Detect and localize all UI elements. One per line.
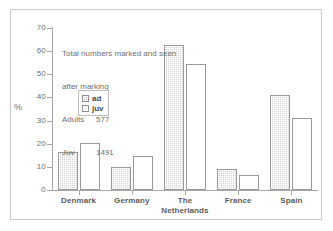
y-tick-label-text: 20 bbox=[20, 139, 46, 148]
y-tick-label-40: 40 bbox=[16, 92, 46, 102]
bar-juv-france bbox=[239, 175, 259, 190]
chart-legend: ad juv bbox=[78, 90, 109, 116]
bar-ad-spain bbox=[270, 95, 290, 190]
bar-ad-france bbox=[217, 169, 237, 190]
y-tick-label-20: 20 bbox=[16, 139, 46, 149]
legend-swatch-juv-icon bbox=[82, 105, 89, 112]
y-tick-label-text: 50 bbox=[20, 69, 46, 78]
bar-juv-spain bbox=[292, 118, 312, 190]
y-tick-label-60: 60 bbox=[16, 46, 46, 56]
x-tick-4 bbox=[291, 190, 292, 195]
x-axis-label-line-1: Germany bbox=[105, 196, 158, 206]
x-tick-1 bbox=[132, 190, 133, 195]
x-axis-label-line-1: Spain bbox=[265, 196, 318, 206]
annotation-juv: Juv1491 bbox=[62, 147, 176, 158]
y-tick-label-30: 30 bbox=[16, 116, 46, 126]
x-axis-label-line-1: France bbox=[212, 196, 265, 206]
x-axis-label-the-netherlands: TheNetherlands bbox=[158, 196, 211, 216]
x-tick-3 bbox=[238, 190, 239, 195]
legend-swatch-ad-icon bbox=[82, 95, 89, 102]
y-axis-title: % bbox=[14, 102, 22, 112]
x-axis-label-france: France bbox=[212, 196, 265, 206]
x-axis-label-germany: Germany bbox=[105, 196, 158, 206]
y-tick-label-50: 50 bbox=[16, 69, 46, 79]
y-tick-label-10: 10 bbox=[16, 162, 46, 172]
x-tick-0 bbox=[79, 190, 80, 195]
y-tick-label-text: 40 bbox=[20, 92, 46, 101]
annotation-line-1: Total numbers marked and seen bbox=[62, 48, 176, 59]
y-tick-label-70: 70 bbox=[16, 23, 46, 33]
x-axis-label-line-1: The bbox=[158, 196, 211, 206]
bar-juv-the-netherlands bbox=[186, 64, 206, 190]
y-tick-label-text: 10 bbox=[20, 162, 46, 171]
x-axis-label-line-1: Denmark bbox=[52, 196, 105, 206]
annotation-adults-value: 577 bbox=[96, 115, 109, 124]
x-tick-2 bbox=[185, 190, 186, 195]
legend-item-ad: ad bbox=[82, 93, 104, 103]
legend-label-ad: ad bbox=[92, 94, 101, 103]
y-tick-label-text: 30 bbox=[20, 116, 46, 125]
chart-figure: % 706050403020100 DenmarkGermanyTheNethe… bbox=[0, 0, 333, 231]
y-tick-label-0: 0 bbox=[16, 185, 46, 195]
y-tick-label-text: 70 bbox=[20, 23, 46, 32]
y-tick-0 bbox=[47, 190, 53, 191]
x-axis-label-line-2: Netherlands bbox=[158, 206, 211, 216]
y-tick-label-text: 0 bbox=[20, 185, 46, 194]
annotation-juv-value: 1491 bbox=[96, 148, 114, 157]
legend-label-juv: juv bbox=[92, 104, 104, 113]
annotation-juv-label: Juv bbox=[62, 147, 96, 158]
legend-item-juv: juv bbox=[82, 103, 104, 113]
x-axis-label-denmark: Denmark bbox=[52, 196, 105, 206]
y-tick-label-text: 60 bbox=[20, 46, 46, 55]
x-axis-label-spain: Spain bbox=[265, 196, 318, 206]
